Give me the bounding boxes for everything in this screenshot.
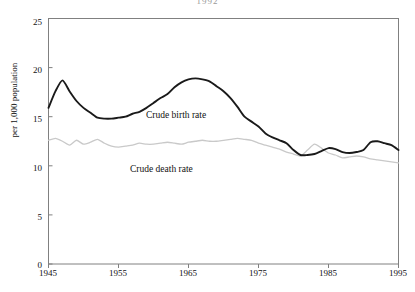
death-rate-line <box>49 138 399 163</box>
x-tickmarks <box>49 264 399 268</box>
birth-rate-annotation: Crude birth rate <box>146 110 206 120</box>
plot-area <box>0 0 415 292</box>
birth-rate-line <box>49 78 399 155</box>
chart-figure: 1992 per 1,000 population 25 20 15 10 5 … <box>0 0 415 292</box>
y-tickmarks <box>49 19 53 265</box>
death-rate-annotation: Crude death rate <box>130 164 193 174</box>
